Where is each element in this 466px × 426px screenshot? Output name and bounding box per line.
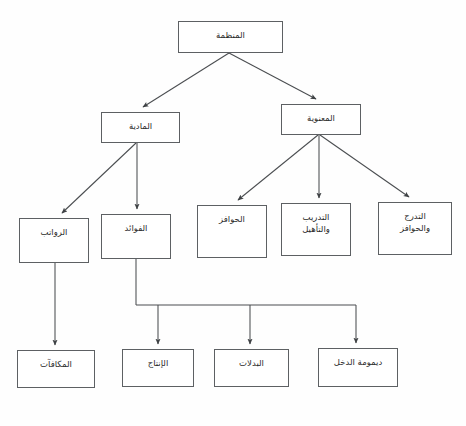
node-income-continuity[interactable]: ديمومة الدخل (318, 348, 398, 387)
node-incentives[interactable]: الحوافز (197, 205, 267, 258)
node-label-income-continuity: ديمومة الدخل (334, 356, 382, 368)
connector-moral-to-incentives (238, 135, 318, 200)
node-label-bonuses: المكافآت (40, 358, 72, 370)
connector-org-to-moral (229, 53, 316, 99)
node-label-progression: التدرج والحوافز (400, 210, 430, 235)
node-organization[interactable]: المنظمة (178, 21, 283, 53)
node-salaries[interactable]: الرواتب (19, 218, 89, 263)
node-label-training: التدريب والتأهيل (302, 211, 330, 236)
connector-material-to-salaries (62, 143, 136, 213)
node-progression[interactable]: التدرج والحوافز (378, 202, 452, 255)
node-label-allowances: البدلات (239, 357, 264, 369)
node-label-organization: المنظمة (216, 29, 245, 41)
connector-moral-to-progression (320, 135, 409, 197)
node-material[interactable]: المادية (101, 112, 180, 143)
node-label-incentives: الحوافز (219, 213, 245, 225)
node-label-material: المادية (129, 120, 152, 132)
node-label-production: الإنتاج (148, 357, 169, 369)
node-benefits[interactable]: الفوائد (101, 214, 171, 259)
node-production[interactable]: الإنتاج (122, 349, 194, 387)
node-bonuses[interactable]: المكافآت (17, 350, 95, 388)
node-allowances[interactable]: البدلات (214, 349, 289, 387)
node-label-moral: المعنوية (307, 112, 335, 124)
connector-org-to-material (143, 53, 229, 107)
node-label-salaries: الرواتب (41, 226, 68, 238)
node-label-benefits: الفوائد (125, 222, 148, 234)
diagram-canvas: المنظمة المادية المعنوية الرواتب الفوائد… (0, 0, 466, 426)
node-moral[interactable]: المعنوية (281, 104, 361, 135)
node-training[interactable]: التدريب والتأهيل (281, 203, 351, 256)
